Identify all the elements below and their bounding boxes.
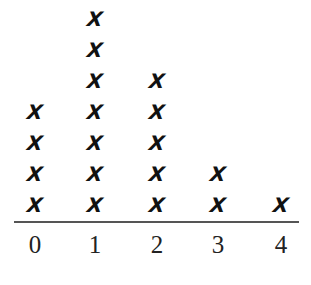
x-mark: X xyxy=(14,193,57,217)
x-axis-line xyxy=(14,221,299,223)
x-mark: X xyxy=(136,69,179,93)
x-mark: X xyxy=(74,7,117,31)
x-mark: X xyxy=(14,162,57,186)
x-mark: X xyxy=(136,193,179,217)
x-mark: X xyxy=(74,69,117,93)
x-mark: X xyxy=(14,131,57,155)
tick-label-0: 0 xyxy=(15,230,55,260)
x-mark: X xyxy=(14,100,57,124)
x-mark: X xyxy=(74,38,117,62)
x-mark: X xyxy=(136,100,179,124)
tick-label-4: 4 xyxy=(261,230,301,260)
x-mark: X xyxy=(74,162,117,186)
tick-label-1: 1 xyxy=(75,230,115,260)
x-mark: X xyxy=(74,193,117,217)
dot-plot: XXXXXXXXXXXXXXXXXXX 01234 xyxy=(0,0,311,285)
tick-label-2: 2 xyxy=(137,230,177,260)
x-mark: X xyxy=(197,193,240,217)
x-mark: X xyxy=(136,162,179,186)
x-mark: X xyxy=(74,100,117,124)
x-mark: X xyxy=(197,162,240,186)
x-mark: X xyxy=(74,131,117,155)
tick-label-3: 3 xyxy=(198,230,238,260)
x-mark: X xyxy=(260,193,303,217)
x-mark: X xyxy=(136,131,179,155)
